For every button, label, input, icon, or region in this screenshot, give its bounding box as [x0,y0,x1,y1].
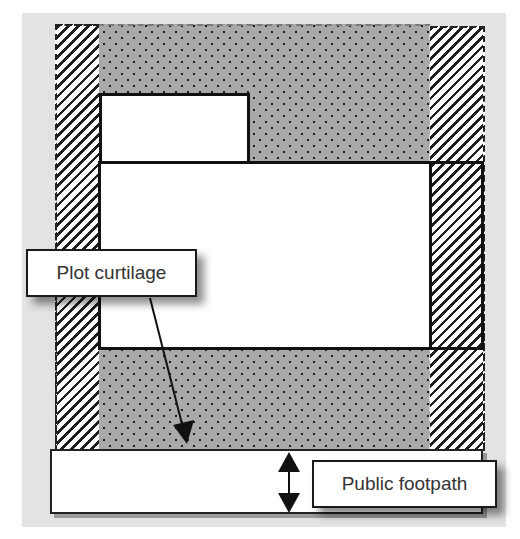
dwelling-extension-hatched [429,161,484,350]
left-side-strip-hatched [55,24,99,451]
outbuilding [99,93,250,164]
public-footpath-text: Public footpath [342,473,468,495]
public-footpath-label: Public footpath [312,460,497,508]
plot-curtilage-text: Plot curtilage [57,262,167,284]
plot-curtilage-label: Plot curtilage [26,249,197,297]
